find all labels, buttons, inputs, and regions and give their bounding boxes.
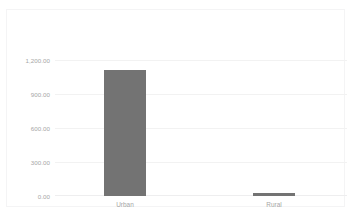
gridline	[55, 128, 347, 129]
x-tick-label-urban: Urban	[116, 200, 134, 209]
chart-container: 1,200.00 900.00 600.00 300.00 0.00 Urban…	[6, 9, 345, 207]
y-tick-label: 1,200.00	[6, 57, 50, 64]
gridline	[55, 162, 347, 163]
y-tick-label: 0.00	[6, 193, 50, 200]
y-tick-label: 900.00	[6, 91, 50, 98]
y-axis: 1,200.00 900.00 600.00 300.00 0.00	[7, 10, 55, 213]
gridline	[55, 60, 347, 61]
plot-area	[55, 60, 347, 196]
x-tick-label-rural: Rural	[266, 200, 282, 209]
x-axis: Urban Rural	[55, 200, 347, 213]
y-tick-label: 300.00	[6, 159, 50, 166]
gridline	[55, 94, 347, 95]
axis-baseline	[55, 195, 347, 196]
bar-rural[interactable]	[253, 193, 295, 196]
bar-urban[interactable]	[104, 70, 146, 196]
y-tick-label: 600.00	[6, 125, 50, 132]
